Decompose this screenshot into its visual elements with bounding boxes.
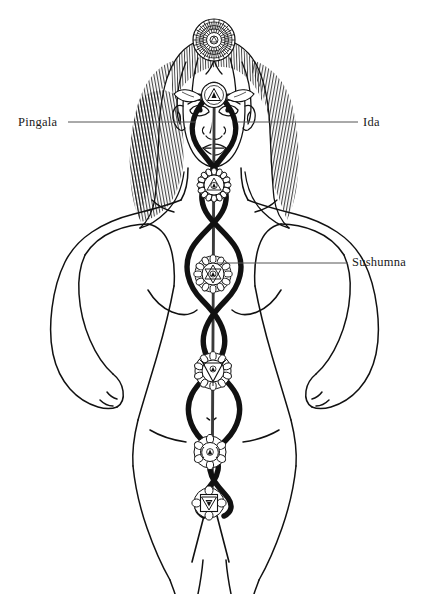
chakra-anahata bbox=[194, 255, 232, 293]
label-sushumna: Sushumna bbox=[352, 256, 406, 269]
subtle-body-figure bbox=[0, 0, 433, 594]
diagram-canvas: Pingala Ida Sushumna bbox=[0, 0, 433, 594]
chakra-vishuddha bbox=[197, 168, 231, 202]
chakra-ajna bbox=[174, 82, 254, 108]
hair bbox=[120, 30, 320, 240]
label-pingala: Pingala bbox=[18, 116, 57, 129]
chakra-sahasrara bbox=[193, 19, 235, 61]
label-ida: Ida bbox=[363, 116, 380, 129]
